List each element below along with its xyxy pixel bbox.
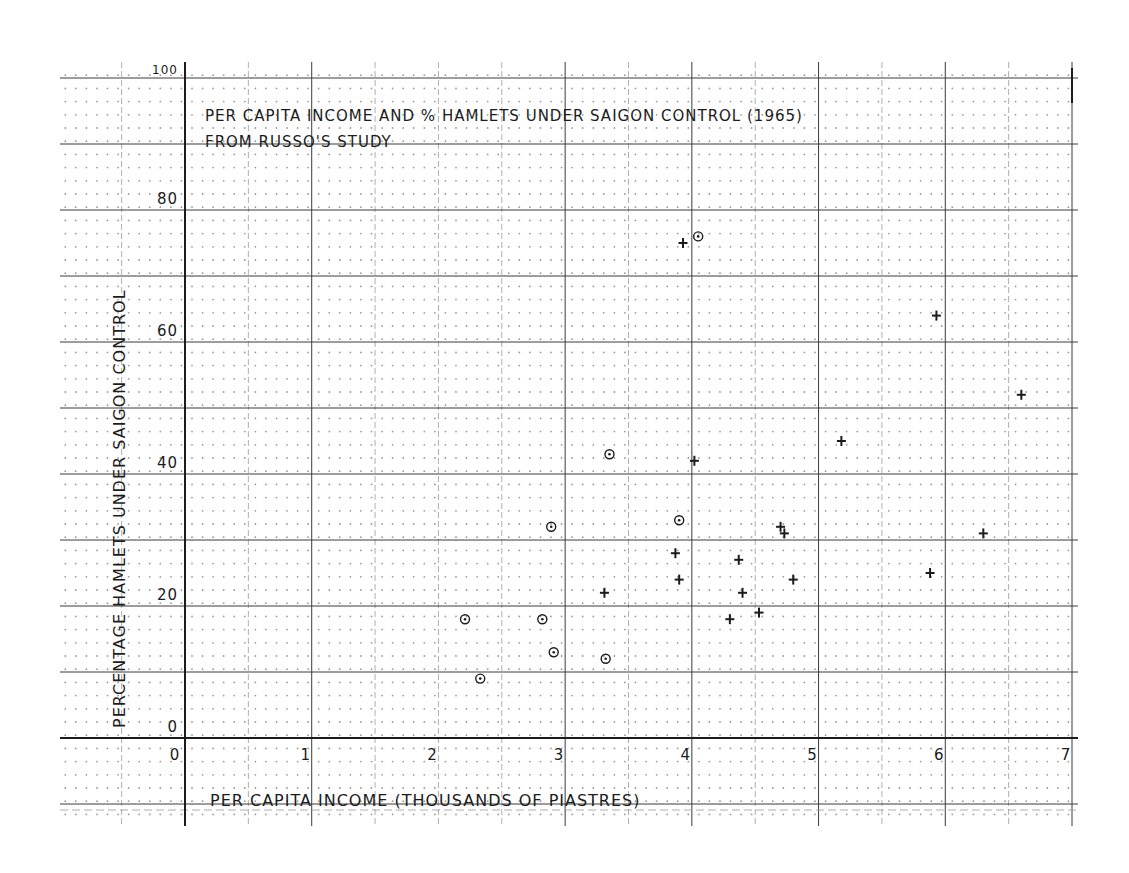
y-tick-label: 80 [157, 190, 178, 208]
plus-marker [678, 238, 687, 248]
x-axis-ticks: 01234567 [170, 746, 1072, 764]
x-axis-label: PER CAPITA INCOME (THOUSANDS OF PIASTRES… [210, 791, 641, 810]
x-tick-label: 6 [934, 746, 945, 764]
plus-marker [690, 456, 699, 466]
plus-marker [738, 588, 747, 598]
circle-marker [675, 516, 684, 525]
y-tick-label: 60 [157, 322, 178, 340]
chart-subtitle: FROM RUSSO'S STUDY [205, 133, 392, 151]
x-tick-label: 2 [427, 746, 438, 764]
y-tick-label: 20 [157, 586, 178, 604]
plus-marker [926, 568, 935, 578]
x-tick-label: 0 [170, 746, 181, 764]
chart-title: PER CAPITA INCOME AND % HAMLETS UNDER SA… [205, 107, 803, 125]
circle-marker [601, 654, 610, 663]
plus-marker [600, 588, 609, 598]
x-tick-label: 4 [681, 746, 692, 764]
y-axis-label: PERCENTAGE HAMLETS UNDER SAIGON CONTROL [110, 289, 129, 728]
plus-marker [932, 311, 941, 321]
x-tick-label: 7 [1061, 746, 1072, 764]
plus-marker [725, 614, 734, 624]
circle-marker [605, 450, 614, 459]
y-tick-label: 100 [152, 63, 178, 77]
x-tick-label: 3 [554, 746, 565, 764]
y-axis-ticks: 020406080100 [152, 63, 178, 736]
scatter-chart: 01234567 020406080100 PER CAPITA INCOME … [0, 0, 1129, 873]
plus-marker [1017, 390, 1026, 400]
circle-marker [476, 674, 485, 683]
y-tick-label: 40 [157, 454, 178, 472]
plus-marker [789, 575, 798, 585]
plus-marker [675, 575, 684, 585]
plus-marker [837, 436, 846, 446]
circle-marker [461, 615, 470, 624]
x-tick-label: 5 [807, 746, 818, 764]
graph-paper-dots [64, 74, 1069, 815]
circle-marker [538, 615, 547, 624]
x-tick-label: 1 [300, 746, 311, 764]
circle-marker [549, 648, 558, 657]
plus-marker [979, 528, 988, 538]
plus-marker [671, 548, 680, 558]
y-tick-label: 0 [167, 718, 178, 736]
